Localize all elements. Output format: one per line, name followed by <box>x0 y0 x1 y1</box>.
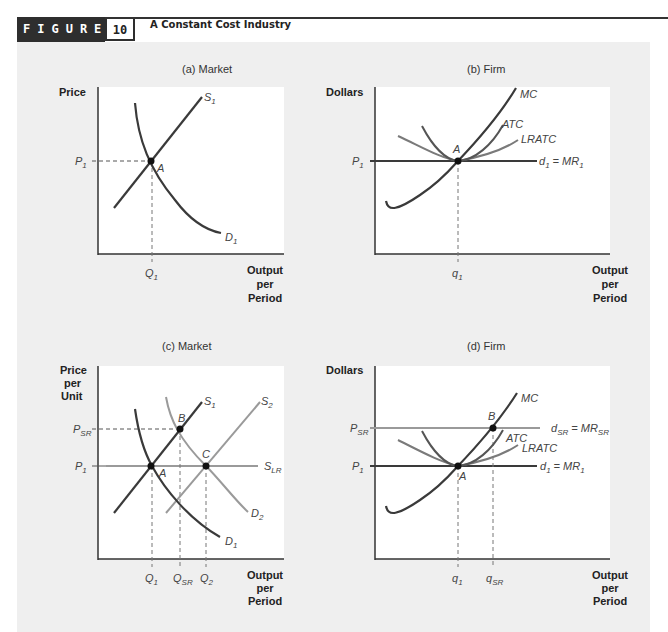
panel-a-market: (a) Market Price A P1 Q1 S1 D1 Output pe… <box>59 63 284 304</box>
x-axis-label-line2: per <box>601 278 619 290</box>
tick-label-q1: Q1 <box>145 572 158 587</box>
panel-title: (d) Firm <box>467 340 506 352</box>
figure-panels: (a) Market Price A P1 Q1 S1 D1 Output pe… <box>0 0 668 632</box>
point-label-a: A <box>158 467 166 479</box>
point-label-a: A <box>156 162 164 174</box>
tick-label-q2: Q2 <box>200 572 214 587</box>
equilibrium-point-a <box>148 158 155 165</box>
curve-label-mc: MC <box>520 88 537 100</box>
tick-label-q1: q1 <box>452 572 463 587</box>
panel-title: (a) Market <box>182 63 232 75</box>
tick-label-p1: P1 <box>75 155 87 170</box>
y-axis-label: Dollars <box>326 364 363 376</box>
x-axis-label-line1: Output <box>247 569 283 581</box>
x-axis-label-line2: per <box>601 582 619 594</box>
x-axis-label-line2: per <box>256 582 274 594</box>
point-label-b: B <box>488 410 495 422</box>
y-axis-label: Dollars <box>326 86 363 98</box>
equilibrium-point-a <box>455 158 462 165</box>
y-axis-label-line3: Unit <box>61 390 83 402</box>
tick-label-p1: P1 <box>352 460 364 475</box>
x-axis-label-line3: Period <box>593 292 627 304</box>
panel-title: (c) Market <box>162 340 212 352</box>
equilibrium-point-b <box>490 425 497 432</box>
equilibrium-point-a <box>455 463 462 470</box>
plot-area <box>98 366 284 559</box>
tick-label-q1: q1 <box>452 267 463 282</box>
curve-label-mc: MC <box>521 392 538 404</box>
y-axis-label-line2: per <box>64 377 82 389</box>
curve-label-atc: ATC <box>501 118 523 130</box>
tick-label-p1: P1 <box>75 460 87 475</box>
panel-title: (b) Firm <box>467 63 506 75</box>
tick-label-qsr: QSR <box>173 572 193 587</box>
x-axis-label-line1: Output <box>247 264 283 276</box>
plot-area <box>375 87 610 254</box>
y-axis-label-line1: Price <box>60 364 87 376</box>
curve-label-lratc: LRATC <box>522 442 557 454</box>
x-axis-label-line2: per <box>256 278 274 290</box>
point-label-a: A <box>458 470 466 482</box>
point-label-c: C <box>202 448 210 460</box>
x-axis-label-line3: Period <box>248 595 282 607</box>
panel-b-firm: (b) Firm Dollars A P1 q1 MC ATC LRATC d1… <box>326 63 628 304</box>
equilibrium-point-b <box>177 426 184 433</box>
panel-c-market: (c) Market Price per Unit A B C PSR P1 Q… <box>60 340 284 607</box>
tick-label-qsr: qSR <box>486 572 503 587</box>
equilibrium-point-a <box>148 463 155 470</box>
x-axis-label-line1: Output <box>592 569 628 581</box>
point-label-b: B <box>178 412 185 424</box>
tick-label-psr: PSR <box>73 423 92 438</box>
panel-d-firm: (d) Firm Dollars A B PSR P1 q1 qSR MC AT… <box>326 340 628 607</box>
x-axis-label-line3: Period <box>248 292 282 304</box>
point-label-a: A <box>452 143 460 155</box>
tick-label-p1: P1 <box>352 155 364 170</box>
y-axis-label: Price <box>59 86 86 98</box>
x-axis-label-line3: Period <box>593 595 627 607</box>
equilibrium-point-c <box>203 463 210 470</box>
tick-label-psr: PSR <box>350 422 369 437</box>
tick-label-q1: Q1 <box>145 267 158 282</box>
curve-label-lratc: LRATC <box>521 133 556 145</box>
x-axis-label-line1: Output <box>592 264 628 276</box>
